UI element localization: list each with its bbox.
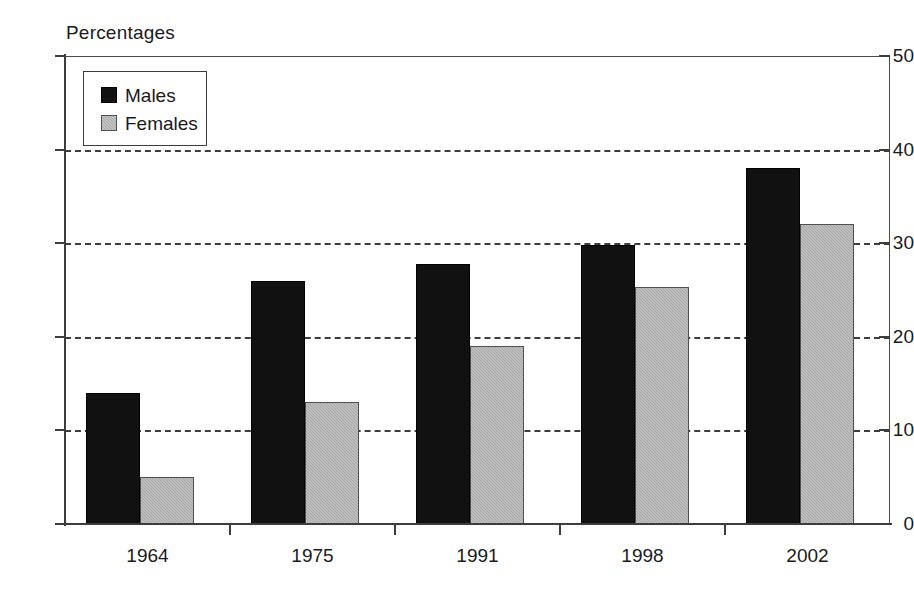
x-tick-boundary-2	[394, 524, 396, 535]
x-axis-line	[64, 523, 892, 525]
legend-item-females: Females	[101, 109, 206, 137]
legend-item-males: Males	[101, 81, 206, 109]
legend-label-females: Females	[125, 114, 198, 133]
x-tick-label-2002: 2002	[786, 545, 828, 567]
bar-males-2002	[746, 168, 800, 524]
x-tick-boundary-4	[724, 524, 726, 535]
bar-females-1975	[305, 402, 359, 524]
x-tick-boundary-1	[229, 524, 231, 535]
bar-males-1964	[86, 393, 140, 524]
x-tick-label-1975: 1975	[291, 545, 333, 567]
bar-males-1975	[251, 281, 305, 524]
bar-chart: Percentages 01020304050 1964197519911998…	[0, 0, 914, 592]
bar-females-1998	[635, 287, 689, 524]
legend-swatch-males-icon	[101, 87, 117, 103]
legend-label-males: Males	[125, 86, 176, 105]
x-tick-label-1998: 1998	[621, 545, 663, 567]
bar-females-1991	[470, 346, 524, 524]
legend-swatch-females-icon	[101, 115, 117, 131]
x-tick-boundary-3	[559, 524, 561, 535]
bar-males-1998	[581, 245, 635, 524]
x-tick-label-1964: 1964	[126, 545, 168, 567]
bar-males-1991	[416, 264, 470, 524]
y-axis-line	[64, 54, 66, 526]
legend: Males Females	[83, 71, 207, 146]
bar-females-1964	[140, 477, 194, 524]
bar-females-2002	[800, 224, 854, 524]
y-axis-unit-label: Percentages	[66, 22, 175, 44]
x-tick-label-1991: 1991	[456, 545, 498, 567]
